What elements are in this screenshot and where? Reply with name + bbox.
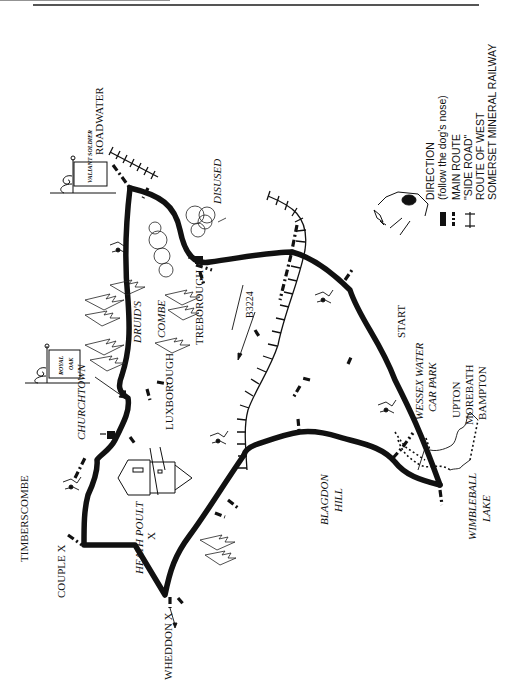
label-start: START bbox=[395, 305, 407, 338]
label-druids: DRUID'S bbox=[131, 301, 143, 343]
label-upton: UPTON bbox=[450, 382, 462, 418]
legend-direction: DIRECTION bbox=[424, 142, 436, 200]
legend-main-route: MAIN ROUTE bbox=[450, 134, 462, 200]
label-wimbleball: WIMBLEBALL bbox=[466, 473, 478, 540]
label-luxborough: LUXBOROUGH bbox=[163, 353, 175, 430]
route-of-west bbox=[395, 420, 478, 470]
label-bampton: BAMPTON bbox=[476, 366, 488, 420]
legend-route-of-west: ROUTE OF WEST bbox=[474, 113, 486, 201]
quarry-trees bbox=[191, 207, 226, 237]
label-blagdon: BLAGDON bbox=[318, 474, 330, 525]
dog-direction-icon bbox=[374, 192, 428, 235]
legend-railway-icon bbox=[465, 212, 475, 228]
label-hill: HILL bbox=[332, 488, 344, 512]
label-morebath: MOREBATH bbox=[463, 364, 475, 425]
label-disused: DISUSED bbox=[211, 159, 223, 204]
valiant-soldier-sign bbox=[50, 156, 116, 193]
legend-direction-note: (follow the dog's nose) bbox=[436, 95, 448, 200]
legend-railway: SOMERSET MINERAL RAILWAY bbox=[486, 44, 498, 200]
label-valiant-soldier: VALIANT SOLDIER bbox=[84, 130, 96, 183]
legend-side-road: "SIDE ROAD" bbox=[462, 135, 474, 200]
church-drawing bbox=[118, 447, 192, 495]
label-heath-poult-x: X bbox=[145, 532, 157, 540]
label-churchtown: CHURCHTOWN bbox=[75, 364, 87, 440]
label-car-park: CAR PARK bbox=[426, 362, 438, 412]
legend-side-road-icon bbox=[452, 212, 455, 226]
label-heath-poult: HEATH POULT bbox=[133, 502, 145, 574]
legend-main-route-icon bbox=[440, 212, 446, 226]
label-wessex-water: WESSEX WATER bbox=[413, 343, 425, 420]
label-b3224: B3224 bbox=[244, 291, 256, 318]
label-combe: COMBE bbox=[155, 300, 167, 338]
label-treborough: TREBOROUGH bbox=[193, 270, 205, 345]
label-lake: LAKE bbox=[480, 495, 492, 522]
label-timberscombe: TIMBERSCOMBE bbox=[18, 475, 30, 562]
label-couple-x: COUPLE X bbox=[55, 545, 67, 598]
label-wheddon-x: WHEDDON X bbox=[162, 612, 174, 680]
